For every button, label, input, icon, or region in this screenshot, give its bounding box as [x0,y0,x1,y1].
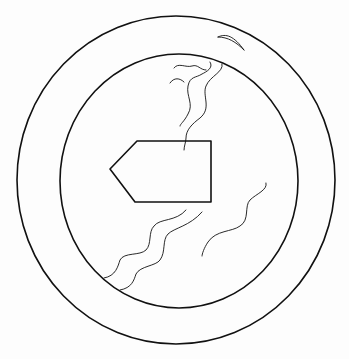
pentagon-hole [110,141,211,202]
crack-top-4 [184,64,222,150]
inner-circle [60,54,298,308]
coin-drawing [0,0,349,359]
mark-top-right [218,35,244,50]
crack-bottom-2 [120,212,202,290]
crack-top-1 [174,65,206,70]
coin-svg [0,0,349,359]
outer-circle [17,16,335,344]
crack-top-2 [170,79,184,83]
crack-top-3 [180,62,211,126]
